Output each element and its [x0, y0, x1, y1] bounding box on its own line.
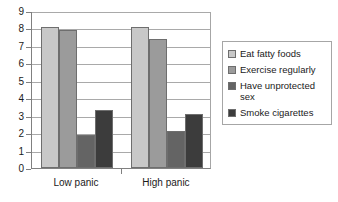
legend-label: Smoke cigarettes [240, 107, 313, 118]
chart-legend: Eat fatty foodsExercise regularlyHave un… [222, 41, 332, 125]
bars-layer [32, 12, 210, 168]
y-tick-label: 0 [18, 164, 24, 174]
legend-entry: Have unprotected sex [228, 80, 326, 102]
y-tick-label: 5 [18, 77, 24, 87]
y-tick-label: 4 [18, 94, 24, 104]
y-tick-label: 1 [18, 147, 24, 157]
bar [167, 131, 185, 168]
y-tick-label: 2 [18, 129, 24, 139]
bar-group [131, 12, 203, 168]
bar-group [41, 12, 113, 168]
bar [185, 114, 203, 168]
legend-entry: Exercise regularly [228, 64, 326, 75]
y-tick-label: 7 [18, 42, 24, 52]
x-tick-mark [121, 169, 122, 174]
y-tick-label: 8 [18, 24, 24, 34]
x-tick-label: Low panic [53, 177, 98, 189]
legend-label: Eat fatty foods [240, 48, 301, 59]
bar [59, 30, 77, 168]
bar-chart-figure: 0123456789 Low panicHigh panic Eat fatty… [0, 0, 338, 202]
legend-swatch-icon [228, 66, 236, 74]
y-tick-label: 6 [18, 59, 24, 69]
y-tick-label: 9 [18, 7, 24, 17]
bar [41, 27, 59, 168]
y-tick-label: 3 [18, 112, 24, 122]
bar [131, 27, 149, 168]
legend-swatch-icon [228, 50, 236, 58]
bar [95, 110, 113, 168]
legend-entry: Smoke cigarettes [228, 107, 326, 118]
plot-area [31, 12, 211, 169]
legend-label: Exercise regularly [240, 64, 316, 75]
legend-swatch-icon [228, 109, 236, 117]
bar [77, 135, 95, 168]
bar [149, 39, 167, 168]
legend-label: Have unprotected sex [240, 80, 326, 102]
legend-entry: Eat fatty foods [228, 48, 326, 59]
legend-swatch-icon [228, 82, 236, 90]
x-axis: Low panicHigh panic [31, 169, 211, 202]
y-axis: 0123456789 [0, 0, 31, 181]
x-tick-label: High panic [142, 177, 189, 189]
